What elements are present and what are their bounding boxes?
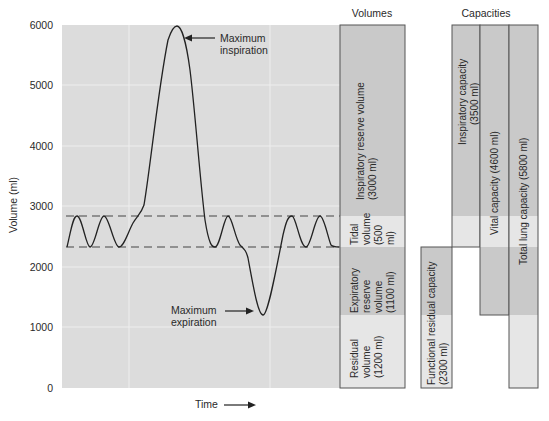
rv-label-1: Residual [349,339,360,378]
lung-volumes-figure: Maximum inspiration Maximum expiration 6… [0,0,549,421]
frc-label-2: (2300 ml) [438,343,449,385]
rv-label-3: (1200 ml) [373,336,384,378]
x-axis-label: Time [195,398,218,410]
y-tick-5000: 5000 [30,79,54,91]
max-expiration-label-2: expiration [171,316,217,328]
erv-label-2: reserve [361,279,372,313]
arrow-right-icon [248,402,256,409]
tidal-label-2: volume [361,212,372,245]
vc-label: Vital capacity (4600 ml) [489,131,500,235]
x-axis-label-group: Time [195,398,256,410]
y-tick-0: 0 [47,382,53,394]
tidal-label-3: (500 [373,225,384,245]
ic-label-2: (3500 ml) [469,83,480,125]
y-axis: 6000 5000 4000 3000 2000 1000 0 [30,19,54,394]
tidal-label-4: ml) [385,231,396,245]
tidal-label-1: Tidal [349,224,360,245]
y-axis-label: Volume (ml) [7,177,19,233]
erv-label-4: (1100 ml) [385,272,396,314]
frc-label-1: Functional residual capacity [426,262,437,385]
y-tick-6000: 6000 [30,19,54,31]
y-tick-4000: 4000 [30,140,54,152]
max-expiration-label-1: Maximum [171,304,217,316]
spirogram-plot: Maximum inspiration Maximum expiration [62,25,340,388]
ic-bar: Inspiratory capacity (3500 ml) [452,25,480,247]
ic-label-1: Inspiratory capacity [457,59,468,145]
vc-bar: Vital capacity (4600 ml) [480,25,509,315]
volumes-column: Inspiratory reserve volume (3000 ml) Tid… [340,25,405,388]
erv-label-3: volume [373,280,384,313]
capacities-header: Capacities [461,7,510,19]
tlc-label: Total lung capacity (5800 ml) [518,138,529,265]
irv-label-1: Inspiratory reserve volume [355,82,366,200]
max-inspiration-label-2: inspiration [220,44,268,56]
erv-label-1: Expiratory [349,268,360,313]
tlc-bar: Total lung capacity (5800 ml) [509,25,538,388]
volumes-header: Volumes [352,7,392,19]
frc-bar: Functional residual capacity (2300 ml) [421,247,452,388]
irv-label-2: (3000 ml) [367,158,378,200]
y-tick-3000: 3000 [30,200,54,212]
y-tick-1000: 1000 [30,321,54,333]
rv-label-2: volume [361,345,372,378]
max-inspiration-label-1: Maximum [220,32,266,44]
y-tick-2000: 2000 [30,261,54,273]
